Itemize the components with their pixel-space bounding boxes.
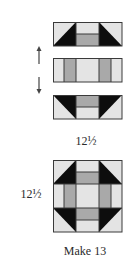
down-arrow-icon xyxy=(37,77,42,94)
bottom-strip-graphic xyxy=(53,95,123,120)
finished-block xyxy=(53,160,123,233)
bottom-strip xyxy=(53,95,123,120)
middle-strip xyxy=(53,58,123,83)
churn-dash-block-graphic xyxy=(53,160,123,233)
top-strip-graphic xyxy=(53,22,123,47)
top-strip xyxy=(53,22,123,47)
middle-strip-graphic xyxy=(53,58,123,83)
strip-width-label: 12½ xyxy=(70,134,102,149)
assembly-arrows xyxy=(34,46,44,96)
make-count-label: Make 13 xyxy=(55,244,115,259)
up-arrow-icon xyxy=(37,46,42,64)
block-height-label: 12½ xyxy=(14,187,48,202)
